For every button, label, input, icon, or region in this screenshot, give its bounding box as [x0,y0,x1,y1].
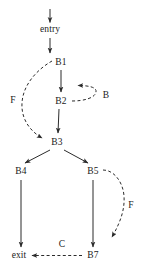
edge-b3-to-b5 [64,150,88,163]
edge-b2-to-b3 [58,109,59,133]
edge-b2-back-b [72,86,96,102]
edge-b5-to-b7-f [103,170,124,237]
node-b5[interactable]: B5 [87,167,98,177]
node-exit[interactable]: exit [12,251,27,261]
edge-b3-to-b4 [25,150,50,163]
edge-label-b: B [103,91,109,101]
control-flow-graph [0,0,146,273]
node-b7[interactable]: B7 [87,251,98,261]
edge-label-f-left: F [10,96,15,106]
edge-label-f-right: F [128,201,133,211]
node-b3[interactable]: B3 [51,138,62,148]
node-b4[interactable]: B4 [15,167,26,177]
node-b1[interactable]: B1 [55,58,66,68]
diagram-canvas: entry B1 B2 B3 B4 B5 B7 exit B F F C [0,0,146,273]
edge-b1-to-b3-f [22,61,52,138]
edge-label-c: C [59,240,65,250]
node-b2[interactable]: B2 [55,97,66,107]
node-entry[interactable]: entry [40,25,60,35]
